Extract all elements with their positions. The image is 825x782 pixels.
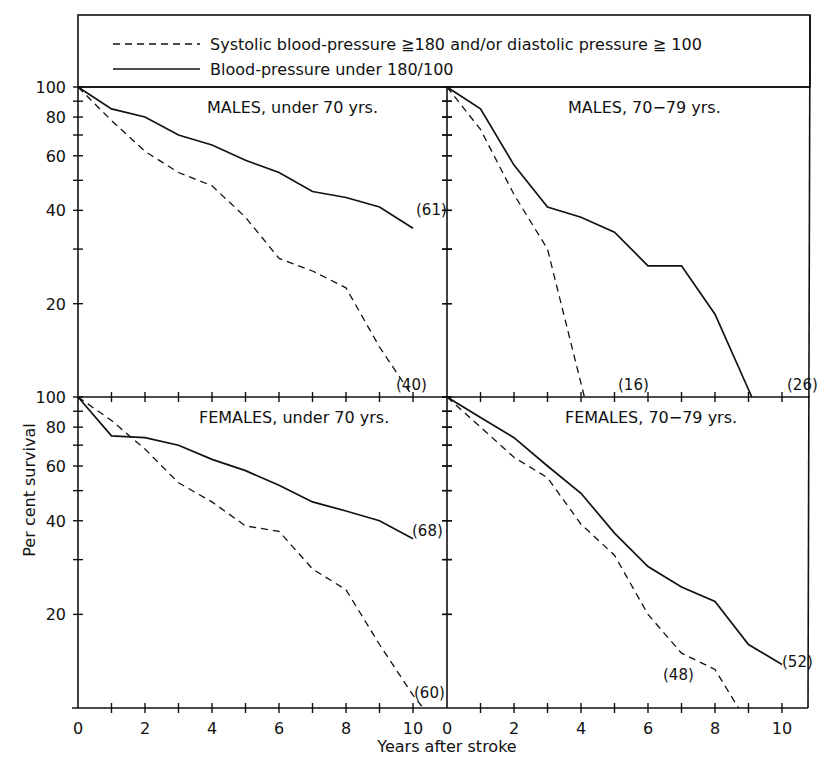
dashed-curve-high-bp xyxy=(447,87,584,397)
x-tick-label: 10 xyxy=(772,719,792,738)
sample-size-label: (40) xyxy=(396,376,427,394)
y-tick-label: 100 xyxy=(35,388,66,407)
sample-size-labels: (61)(40)(26)(16)(68)(60)(52)(48) xyxy=(396,201,818,702)
x-tick-label: 8 xyxy=(341,719,351,738)
x-tick-label: 2 xyxy=(509,719,519,738)
sample-size-label: (52) xyxy=(782,653,813,671)
y-tick-label: 40 xyxy=(46,512,66,531)
solid-curve-normal-bp xyxy=(447,87,752,397)
dashed-curve-high-bp xyxy=(78,397,423,708)
x-tick-label: 10 xyxy=(403,719,423,738)
y-tick-label: 80 xyxy=(46,108,66,127)
sample-size-label: (61) xyxy=(416,201,447,219)
panel-title-males-70-79: MALES, 70−79 yrs. xyxy=(568,98,721,117)
y-tick-label: 60 xyxy=(46,147,66,166)
sample-size-label: (48) xyxy=(663,666,694,684)
x-tick-label: 4 xyxy=(207,719,217,738)
y-axis-label: Per cent survival xyxy=(20,423,39,556)
x-tick-label: 0 xyxy=(442,719,452,738)
x-tick-label: 2 xyxy=(140,719,150,738)
panel-frames xyxy=(72,15,810,708)
x-tick-label: 6 xyxy=(643,719,653,738)
x-tick-label: 4 xyxy=(576,719,586,738)
x-axis-label: Years after stroke xyxy=(376,737,516,756)
x-tick-label: 6 xyxy=(274,719,284,738)
sample-size-label: (16) xyxy=(618,376,649,394)
y-tick-label: 100 xyxy=(35,78,66,97)
y-tick-label: 60 xyxy=(46,457,66,476)
sample-size-label: (26) xyxy=(787,376,818,394)
dashed-curve-high-bp xyxy=(447,397,739,708)
y-tick-label: 80 xyxy=(46,418,66,437)
x-tick-label: 0 xyxy=(73,719,83,738)
panel-title-females-under70: FEMALES, under 70 yrs. xyxy=(199,408,389,427)
panel-title-males-under70: MALES, under 70 yrs. xyxy=(207,98,378,117)
y-tick-label: 20 xyxy=(46,295,66,314)
axis-ticks xyxy=(73,87,782,713)
dashed-curve-high-bp xyxy=(78,87,413,397)
sample-size-label: (60) xyxy=(414,684,445,702)
y-tick-label: 20 xyxy=(46,605,66,624)
y-tick-label: 40 xyxy=(46,201,66,220)
panel-title-females-70-79: FEMALES, 70−79 yrs. xyxy=(565,408,737,427)
legend-solid-label: Blood-pressure under 180/100 xyxy=(210,60,454,79)
solid-curve-normal-bp xyxy=(447,397,782,665)
legend-dashed-label: Systolic blood-pressure ≧180 and/or dias… xyxy=(210,35,702,54)
survival-chart: Systolic blood-pressure ≧180 and/or dias… xyxy=(0,0,825,782)
x-tick-label: 8 xyxy=(710,719,720,738)
sample-size-label: (68) xyxy=(412,522,443,540)
